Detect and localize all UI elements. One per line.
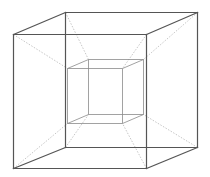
inner-cube-depth-edge <box>68 60 89 69</box>
inner-cube-depth-edge <box>123 115 144 124</box>
connector-edge <box>14 35 68 69</box>
inner-cube-depth-edge <box>68 115 89 124</box>
outer-cube-depth-edge <box>147 148 198 169</box>
connector-edge <box>66 13 89 60</box>
outer-cube-depth-edge <box>147 13 198 35</box>
connector-edge <box>14 124 68 169</box>
tesseract-svg <box>0 0 210 177</box>
connector-edge <box>123 124 147 169</box>
connector-edge <box>144 13 198 60</box>
connector-edge <box>144 115 198 148</box>
outer-cube-depth-edge <box>14 148 66 169</box>
outer-cube-depth-edge <box>14 13 66 35</box>
connector-edges <box>14 13 198 169</box>
tesseract-diagram <box>0 0 210 177</box>
inner-cube <box>68 60 144 124</box>
